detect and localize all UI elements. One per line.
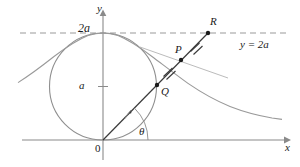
horizontal-guide-through-P	[140, 47, 228, 78]
y-axis-label: y	[97, 3, 102, 14]
origin-label: 0	[95, 143, 101, 154]
asymptote-equation-label: y = 2a	[240, 39, 269, 50]
inner-angle-arc	[125, 110, 131, 119]
figure-canvas: y x 0 2a a P Q R θ y = 2a	[0, 0, 300, 167]
witch-of-agnesi-diagram	[0, 0, 300, 167]
theta-angle-label: θ	[139, 126, 144, 137]
two-a-label: 2a	[78, 22, 90, 34]
point-marker-R	[206, 31, 210, 35]
x-axis	[22, 137, 291, 144]
point-marker-P	[179, 58, 183, 62]
x-axis-label: x	[285, 142, 290, 153]
point-label-Q: Q	[161, 86, 169, 97]
point-marker-Q	[155, 83, 159, 87]
inner-arc-dot	[130, 112, 132, 114]
point-label-P: P	[175, 44, 182, 55]
point-label-R: R	[210, 16, 217, 27]
a-label: a	[79, 80, 85, 91]
